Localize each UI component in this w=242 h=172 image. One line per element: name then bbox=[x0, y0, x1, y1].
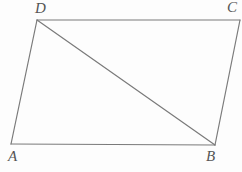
caption-remnant bbox=[88, 166, 160, 172]
segment-bc bbox=[215, 20, 240, 145]
vertex-label-a: A bbox=[8, 149, 17, 164]
geometry-figure: D C A B bbox=[0, 0, 242, 172]
vertex-label-d: D bbox=[35, 1, 46, 16]
vertex-label-c: C bbox=[227, 0, 237, 15]
segment-db-diagonal bbox=[37, 20, 215, 145]
geometry-canvas bbox=[0, 0, 242, 172]
segment-ab bbox=[11, 144, 215, 145]
vertex-label-b: B bbox=[206, 149, 215, 164]
segment-da bbox=[11, 20, 37, 144]
